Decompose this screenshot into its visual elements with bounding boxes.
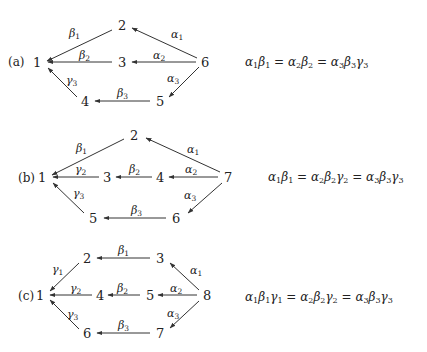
path-diagrams: (a) 1 2 3 4 5 6 α1 β1 α2 β2 α3 β3 γ3 α1β… (0, 0, 427, 352)
diagram-c: (c) 1 2 3 4 5 6 7 8 α1 β1 γ1 α2 β2 γ2 α3… (18, 244, 393, 341)
node-2: 2 (118, 18, 126, 33)
diagram-tag: (a) (8, 55, 25, 69)
node-1: 1 (38, 170, 46, 185)
node-1: 1 (33, 55, 41, 70)
node-4: 4 (96, 288, 104, 303)
node-7: 7 (224, 170, 232, 185)
edge-label: α3 (167, 72, 179, 86)
edge-label: α3 (184, 189, 196, 203)
equation: α1β1 = α2β2 = α3β3γ3 (245, 55, 368, 70)
node-3: 3 (118, 55, 126, 70)
edge-label: α2 (170, 282, 182, 296)
diagram-a: (a) 1 2 3 4 5 6 α1 β1 α2 β2 α3 β3 γ3 α1β… (8, 18, 368, 109)
edge-label: β3 (116, 87, 128, 101)
node-6: 6 (172, 211, 180, 226)
node-4: 4 (81, 94, 89, 109)
node-3: 3 (156, 251, 164, 266)
node-6: 6 (83, 326, 91, 341)
node-5: 5 (89, 211, 97, 226)
edge-7-2 (146, 138, 220, 172)
edge-label: β1 (68, 27, 80, 41)
edge-label: β2 (116, 282, 128, 296)
equation: α1β1 = α2β2γ2 = α3β3γ3 (268, 170, 404, 185)
edge-label: β1 (75, 142, 87, 156)
edge-label: α3 (167, 307, 179, 321)
equation: α1β1γ1 = α2β2γ2 = α3β3γ3 (245, 290, 393, 305)
node-5: 5 (156, 94, 164, 109)
edge-label: β1 (117, 244, 129, 258)
diagram-tag: (c) (18, 289, 34, 303)
node-1: 1 (36, 288, 44, 303)
edge-label: γ1 (52, 263, 63, 277)
node-8: 8 (203, 288, 211, 303)
node-2: 2 (83, 251, 91, 266)
diagram-tag: (b) (18, 171, 35, 185)
diagram-b: (b) 1 2 3 4 5 6 7 α1 β1 α2 β2 γ2 α3 β3 γ… (18, 128, 404, 226)
edge-label: α2 (153, 49, 165, 63)
edge-label: γ3 (67, 308, 79, 322)
edge-label: γ2 (70, 282, 82, 296)
node-5: 5 (146, 288, 154, 303)
edge-label: α2 (185, 163, 197, 177)
edge-label: γ3 (66, 74, 78, 88)
edge-label: β2 (128, 163, 140, 177)
edge-label: γ3 (73, 187, 85, 201)
node-3: 3 (103, 170, 111, 185)
node-7: 7 (156, 326, 164, 341)
edge-label: β3 (130, 204, 142, 218)
edge-label: γ2 (75, 163, 87, 177)
edge-label: α1 (187, 143, 199, 157)
node-2: 2 (130, 128, 138, 143)
edge-label: β2 (78, 49, 90, 63)
edge-2-1 (52, 139, 124, 175)
edge-label: β3 (117, 319, 129, 333)
node-6: 6 (201, 55, 209, 70)
node-4: 4 (156, 170, 164, 185)
edge-label: α1 (190, 264, 202, 278)
edge-label: α1 (171, 28, 183, 42)
